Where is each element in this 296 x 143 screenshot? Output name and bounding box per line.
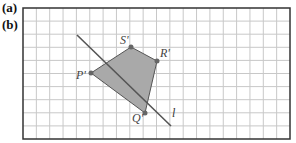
reflection-diagram: lP'S'R'Q'	[0, 0, 296, 143]
vertex-label: R'	[159, 46, 170, 60]
vertex-point	[155, 59, 160, 64]
vertex-label: S'	[120, 33, 129, 47]
vertex-point	[143, 111, 148, 116]
vertex-label: P'	[75, 68, 86, 82]
vertex-point	[89, 71, 94, 76]
vertex-point	[129, 45, 134, 50]
vertex-label: Q'	[132, 111, 144, 125]
